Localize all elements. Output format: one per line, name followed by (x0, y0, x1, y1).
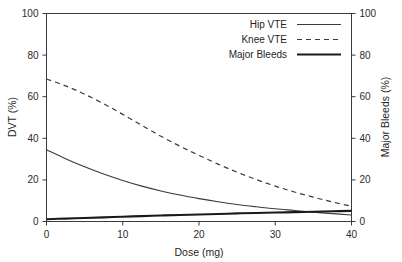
y-tick-label: 80 (27, 50, 39, 61)
x-tick-label: 30 (270, 229, 282, 240)
x-axis-title: Dose (mg) (174, 246, 223, 258)
legend-label-hip-vte: Hip VTE (250, 19, 288, 30)
y2-tick-label: 20 (360, 174, 372, 185)
y-tick-label: 60 (27, 91, 39, 102)
series-line-hip-vte (47, 150, 352, 215)
y-axis-title: DVT (%) (6, 97, 18, 137)
y2-axis-title: Major Bleeds (%) (379, 77, 391, 158)
plot-frame (47, 14, 352, 222)
chart-figure: 020406080100 020406080100 010203040 Dose… (0, 0, 402, 262)
y2-tick-label: 40 (360, 133, 372, 144)
legend-label-knee-vte: Knee VTE (241, 34, 287, 45)
x-tick-label: 20 (193, 229, 205, 240)
left-axis-ticks: 020406080100 (22, 8, 47, 227)
chart-legend: Hip VTE Knee VTE Major Bleeds (229, 19, 341, 60)
x-tick-label: 0 (44, 229, 50, 240)
x-tick-label: 10 (117, 229, 129, 240)
y2-tick-label: 80 (360, 50, 372, 61)
series-line-major-bleeds (47, 211, 352, 219)
x-tick-label: 40 (346, 229, 358, 240)
y2-tick-label: 0 (360, 216, 366, 227)
y2-tick-label: 60 (360, 91, 372, 102)
series-line-knee-vte (47, 79, 352, 206)
right-axis-ticks: 020406080100 (352, 8, 377, 227)
y-tick-label: 100 (22, 8, 39, 19)
y-tick-label: 20 (27, 174, 39, 185)
chart-canvas: 020406080100 020406080100 010203040 Dose… (0, 0, 402, 262)
y2-tick-label: 100 (360, 8, 377, 19)
x-axis-ticks: 010203040 (44, 222, 358, 240)
legend-label-major-bleeds: Major Bleeds (229, 49, 287, 60)
y-tick-label: 0 (33, 216, 39, 227)
y-tick-label: 40 (27, 133, 39, 144)
